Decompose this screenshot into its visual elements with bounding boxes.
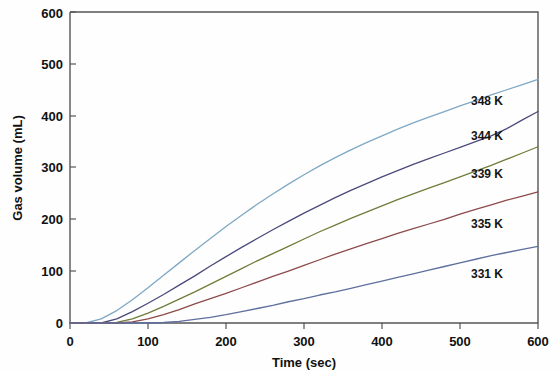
y-tick-label-400: 400: [41, 109, 63, 124]
x-tick-label-500: 500: [449, 334, 471, 349]
y-tick-label-200: 200: [41, 212, 63, 227]
y-tick-label-100: 100: [41, 264, 63, 279]
x-tick-label-600: 600: [527, 334, 549, 349]
x-tick-label-0: 0: [66, 334, 73, 349]
x-tick-label-300: 300: [293, 334, 315, 349]
series-label-344k: 344 K: [471, 129, 503, 143]
y-tick-label-600: 600: [41, 6, 63, 21]
x-tick-label-100: 100: [137, 334, 159, 349]
series-label-331k: 331 K: [471, 267, 503, 281]
y-axis-title: Gas volume (mL): [10, 115, 25, 220]
y-tick-label-300: 300: [41, 160, 63, 175]
y-tick-label-0: 0: [56, 316, 63, 331]
x-axis-title: Time (sec): [272, 355, 336, 370]
gas-volume-chart-figure: 0 100 200 300 400 500 600 0 100 200 300 …: [0, 0, 560, 371]
series-label-335k: 335 K: [471, 217, 503, 231]
chart-background: [0, 0, 560, 371]
y-tick-label-500: 500: [41, 57, 63, 72]
chart-canvas: 0 100 200 300 400 500 600 0 100 200 300 …: [0, 0, 560, 371]
series-label-348k: 348 K: [471, 94, 503, 108]
series-label-339k: 339 K: [471, 167, 503, 181]
x-tick-label-200: 200: [215, 334, 237, 349]
x-tick-label-400: 400: [371, 334, 393, 349]
